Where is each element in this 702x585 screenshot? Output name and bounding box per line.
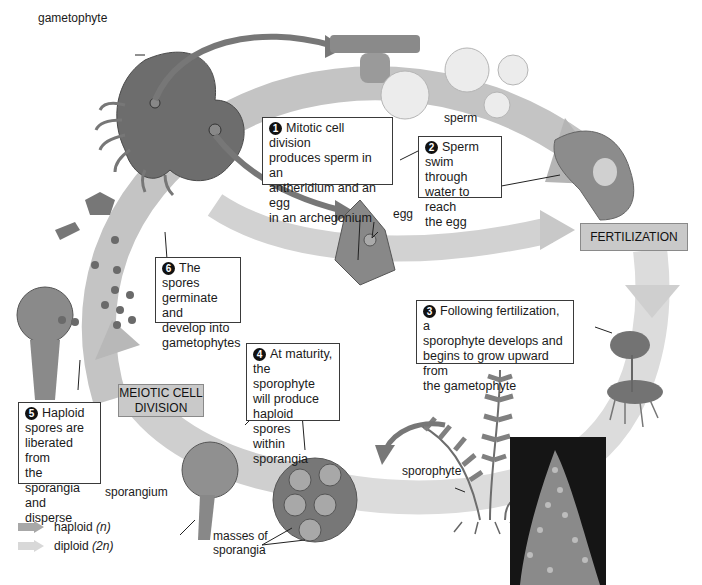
- step-2-line: Sperm: [442, 140, 479, 154]
- step-number-6: 6: [162, 262, 175, 275]
- step-4-line: within sporangia: [253, 437, 333, 467]
- step-3-line: Following fertilization, a: [423, 304, 560, 333]
- sporangium-illustration: [182, 442, 238, 498]
- stage-meiotic-cell-division: MEIOTIC CELL DIVISION: [118, 384, 204, 417]
- step-5-line: liberated from: [25, 436, 94, 466]
- callout-step-3: 3Following fertilization, a sporophyte d…: [416, 300, 574, 364]
- callout-step-2: 2Sperm swim through water to reach the e…: [418, 136, 502, 198]
- stage-meiotic-line1: MEIOTIC CELL: [119, 386, 203, 401]
- label-sperm: sperm: [444, 111, 477, 125]
- open-sporangium-illustration: [17, 287, 73, 343]
- legend-haploid-symbol: (n): [96, 520, 111, 534]
- step-1-line: in an archegonium: [269, 211, 386, 226]
- callout-step-5: 5Haploid spores are liberated from the s…: [18, 402, 101, 484]
- label-gametophyte: gametophyte: [38, 11, 107, 25]
- diploid-arrow-icon: [18, 540, 44, 552]
- step-6-line: develop into: [162, 321, 234, 336]
- step-1-line: antheridium and an egg: [269, 181, 386, 211]
- label-egg: egg: [393, 207, 413, 221]
- step-2-line: the egg: [425, 215, 495, 230]
- label-masses-of-sporangia: masses of sporangia: [213, 529, 268, 557]
- step-1-line: produces sperm in an: [269, 151, 386, 181]
- step-number-2: 2: [425, 141, 438, 154]
- step-5-line: Haploid: [42, 406, 84, 420]
- label-masses-line2: sporangia: [213, 543, 268, 557]
- step-5-line: the sporangia: [25, 466, 94, 496]
- legend-diploid-label: diploid: [54, 539, 89, 553]
- step-number-1: 1: [269, 122, 282, 135]
- label-sporangium: sporangium: [105, 485, 168, 499]
- step-number-5: 5: [25, 407, 38, 420]
- young-gametophyte-2: [55, 222, 80, 240]
- label-sporophyte: sporophyte: [402, 464, 461, 478]
- label-masses-line1: masses of: [213, 529, 268, 543]
- step-2-line: swim through: [425, 155, 495, 185]
- step-3-line: sporophyte develops and: [423, 334, 567, 349]
- young-gametophyte-1: [85, 192, 115, 215]
- haploid-arrow-icon: [18, 521, 44, 533]
- step-4-line: will produce: [253, 392, 333, 407]
- step-4-line: At maturity,: [270, 347, 332, 361]
- step-4-line: the sporophyte: [253, 362, 333, 392]
- legend-haploid-label: haploid: [54, 520, 93, 534]
- stage-meiotic-line2: DIVISION: [119, 401, 203, 416]
- legend-haploid: haploid (n): [18, 520, 111, 534]
- step-3-line: begins to grow upward from: [423, 349, 567, 379]
- legend-diploid-symbol: (2n): [92, 539, 113, 553]
- step-4-line: haploid spores: [253, 407, 333, 437]
- diploid-arrowhead-down: [625, 285, 680, 318]
- stage-fertilization: FERTILIZATION: [580, 223, 688, 251]
- callout-step-1: 1Mitotic cell division produces sperm in…: [262, 117, 393, 185]
- step-2-line: water to reach: [425, 185, 495, 215]
- callout-step-4: 4At maturity, the sporophyte will produc…: [246, 343, 340, 421]
- step-5-line: spores are: [25, 421, 94, 436]
- step-number-3: 3: [423, 305, 436, 318]
- legend-diploid: diploid (2n): [18, 539, 113, 553]
- callout-step-6: 6The spores germinate and develop into g…: [155, 257, 241, 323]
- step-number-4: 4: [253, 348, 266, 361]
- step-3-line: the gametophyte: [423, 379, 567, 394]
- step-6-line: germinate and: [162, 291, 234, 321]
- step-6-line: gametophytes: [162, 336, 234, 351]
